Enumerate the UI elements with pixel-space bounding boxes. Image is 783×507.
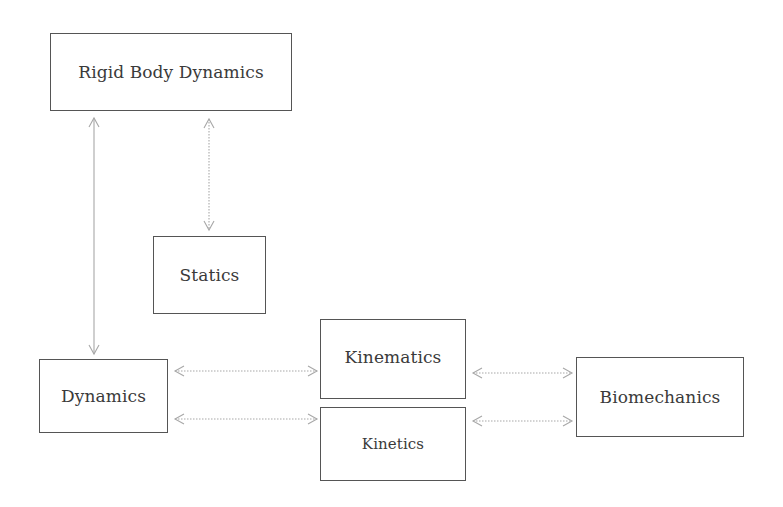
node-label: Biomechanics: [600, 387, 721, 407]
node-label: Statics: [180, 265, 240, 285]
node-label: Rigid Body Dynamics: [78, 62, 263, 82]
node-rigid-body-dynamics: Rigid Body Dynamics: [50, 33, 292, 111]
node-label: Kinetics: [362, 435, 424, 453]
node-kinetics: Kinetics: [320, 407, 466, 481]
node-biomechanics: Biomechanics: [576, 357, 744, 437]
node-kinematics: Kinematics: [320, 319, 466, 399]
node-statics: Statics: [153, 236, 266, 314]
node-dynamics: Dynamics: [39, 359, 168, 433]
node-label: Kinematics: [345, 347, 442, 367]
node-label: Dynamics: [61, 386, 146, 406]
diagram-canvas: Rigid Body Dynamics Statics Dynamics Kin…: [0, 0, 783, 507]
